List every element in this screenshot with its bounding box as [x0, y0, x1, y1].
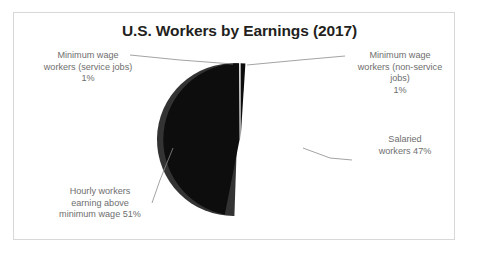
label-line-1: Salaried	[341, 134, 469, 146]
label-line-4-value: 1%	[332, 85, 468, 97]
label-line-3: jobs)	[332, 73, 468, 85]
label-line-1: Minimum wage	[332, 50, 468, 62]
leader-line-minimum-wage-non-service-jobs	[247, 56, 345, 65]
label-line-2: workers (service jobs)	[18, 62, 158, 74]
label-line-2-value: workers 47%	[341, 146, 469, 158]
pie-slice-minimum-wage-non-service-jobs	[241, 63, 246, 139]
pie-label-minimum-wage-non-service-jobs: Minimum wage workers (non-service jobs) …	[332, 50, 468, 96]
label-line-2: earning above	[24, 198, 176, 210]
pie-label-salaried-workers: Salaried workers 47%	[341, 134, 469, 157]
label-line-1: Minimum wage	[18, 50, 158, 62]
label-line-1: Hourly workers	[24, 186, 176, 198]
label-line-2: workers (non-service	[332, 62, 468, 74]
label-line-3-value: minimum wage 51%	[24, 209, 176, 221]
pie-label-minimum-wage-service-jobs: Minimum wage workers (service jobs) 1%	[18, 50, 158, 85]
pie-chart-figure: U.S. Workers by Earnings (2017) Minimum …	[0, 0, 479, 254]
label-line-3-value: 1%	[18, 73, 158, 85]
pie-label-hourly-above-minimum-wage: Hourly workers earning above minimum wag…	[24, 186, 176, 221]
